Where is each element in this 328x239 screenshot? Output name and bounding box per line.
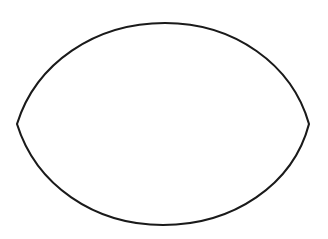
lens-shape-svg: Lens (vesica piscis) outline: [0, 0, 328, 239]
lens-outline-path: [17, 23, 309, 225]
figure-canvas: Lens (vesica piscis) outline: [0, 0, 328, 239]
